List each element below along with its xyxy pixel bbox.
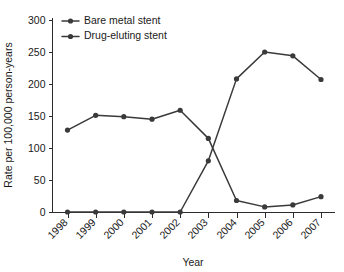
data-point <box>318 77 323 82</box>
data-point <box>318 194 323 199</box>
x-axis-title: Year <box>182 256 204 268</box>
data-point <box>206 158 211 163</box>
x-tick-label: 1998 <box>45 216 70 241</box>
x-axis-labels: 1998199920002001200220032004200520062007 <box>45 216 323 241</box>
x-tick-label: 2004 <box>214 216 239 241</box>
legend-marker-icon <box>68 18 73 23</box>
y-tick-label: 100 <box>28 142 46 154</box>
legend-label: Drug-eluting stent <box>84 29 167 41</box>
data-point <box>206 136 211 141</box>
data-point <box>121 209 126 214</box>
y-axis-labels: 050100150200250300 <box>28 14 46 218</box>
series-1 <box>65 108 324 210</box>
data-point <box>178 209 183 214</box>
data-series-group <box>65 49 324 214</box>
x-tick-label: 2003 <box>185 216 210 241</box>
y-tick-label: 150 <box>28 110 46 122</box>
y-tick-label: 50 <box>34 174 46 186</box>
x-axis-tick-group <box>69 213 322 218</box>
legend-item[interactable]: Drug-eluting stent <box>62 29 167 41</box>
chart-container: 050100150200250300 199819992000200120022… <box>0 0 344 272</box>
x-tick-label: 1999 <box>73 216 98 241</box>
data-point <box>65 209 70 214</box>
data-point <box>65 127 70 132</box>
data-point <box>93 113 98 118</box>
data-point <box>234 198 239 203</box>
data-point <box>149 209 154 214</box>
x-tick-label: 2002 <box>157 216 182 241</box>
x-tick-label: 2006 <box>270 216 295 241</box>
chart-legend: Bare metal stentDrug-eluting stent <box>62 14 167 42</box>
series-2 <box>65 49 324 214</box>
y-tick-label: 250 <box>28 46 46 58</box>
data-point <box>178 108 183 113</box>
x-tick-label: 2000 <box>101 216 126 241</box>
data-point <box>149 117 154 122</box>
data-point <box>290 202 295 207</box>
data-point <box>262 204 267 209</box>
legend-label: Bare metal stent <box>84 14 161 26</box>
series-line <box>68 52 322 212</box>
y-tick-label: 300 <box>28 14 46 26</box>
x-tick-label: 2005 <box>242 216 267 241</box>
data-point <box>234 76 239 81</box>
data-point <box>262 49 267 54</box>
legend-item[interactable]: Bare metal stent <box>62 14 161 26</box>
legend-marker-icon <box>68 34 73 39</box>
x-tick-label: 2001 <box>129 216 154 241</box>
data-point <box>290 53 295 58</box>
y-axis-title: Rate per 100,000 person-years <box>2 42 14 187</box>
data-point <box>121 114 126 119</box>
line-chart: 050100150200250300 199819992000200120022… <box>0 0 344 272</box>
series-line <box>68 110 322 207</box>
x-tick-label: 2007 <box>298 216 323 241</box>
y-tick-label: 0 <box>40 206 46 218</box>
data-point <box>93 209 98 214</box>
y-tick-label: 200 <box>28 78 46 90</box>
